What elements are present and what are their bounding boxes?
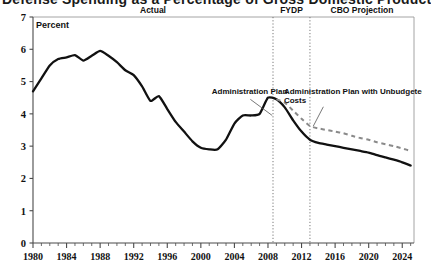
x-tick-label: 2000 [191,251,211,262]
y-tick-label: 6 [21,44,26,55]
series-line-solid [33,51,411,166]
y-axis-unit-label: Percent [36,20,69,30]
y-tick-label: 7 [21,12,26,23]
annotation-admin-plan: Administration Plan [212,87,288,96]
x-tick-label: 2024 [392,251,412,262]
y-tick-label: 5 [21,76,26,87]
y-tick-label: 1 [21,206,26,217]
x-tick-label: 2012 [292,251,312,262]
x-tick-label: 1980 [23,251,43,262]
zone-dividers [273,17,310,243]
y-tick-label: 3 [21,141,26,152]
zone-label-cbo: CBO Projection [331,5,394,15]
y-axis: 01234567 [21,12,33,249]
plot-frame [33,17,414,243]
x-tick-label: 2008 [258,251,278,262]
x-tick-label: 1996 [157,251,177,262]
x-tick-label: 2004 [224,251,244,262]
x-axis: 1980198419881992199620002004200820122016… [23,243,414,262]
x-tick-label: 2016 [325,251,345,262]
zone-label-actual: Actual [140,5,166,15]
y-tick-label: 2 [21,173,26,184]
zone-labels: ActualFYDPCBO Projection [140,5,393,15]
x-tick-label: 1992 [124,251,144,262]
annotation-admin-plan-unbudgeted: Costs [284,96,307,105]
x-tick-label: 1988 [90,251,110,262]
x-tick-label: 1984 [57,251,77,262]
data-series [33,51,411,166]
annotation-leader-admin-plan-unbudgeted [313,107,323,126]
zone-label-fydp: FYDP [280,5,303,15]
y-tick-label: 0 [21,238,26,249]
y-tick-label: 4 [21,109,27,120]
x-tick-label: 2020 [359,251,379,262]
chart-annotations: Administration PlanAdministration Plan w… [212,87,422,126]
annotation-admin-plan-unbudgeted: Administration Plan with Unbudgeted [284,87,422,96]
